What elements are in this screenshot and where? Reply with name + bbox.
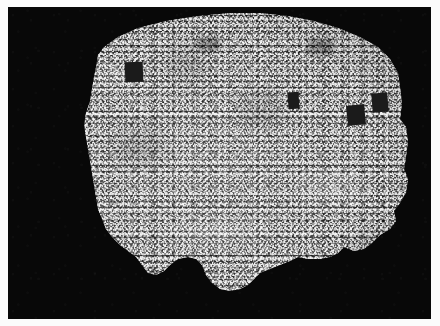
galaxy-density-field	[8, 7, 431, 319]
bright-star-mask	[346, 104, 366, 126]
low-density-patch	[308, 39, 334, 55]
bright-star-mask	[371, 92, 389, 112]
low-density-patch	[198, 37, 220, 51]
sky-background-panel	[8, 7, 431, 319]
bright-star-mask	[125, 62, 144, 83]
figure-root	[0, 0, 440, 326]
field-vignette	[8, 7, 431, 319]
survey-footprint-svg	[8, 7, 431, 319]
bright-star-mask	[287, 92, 299, 110]
